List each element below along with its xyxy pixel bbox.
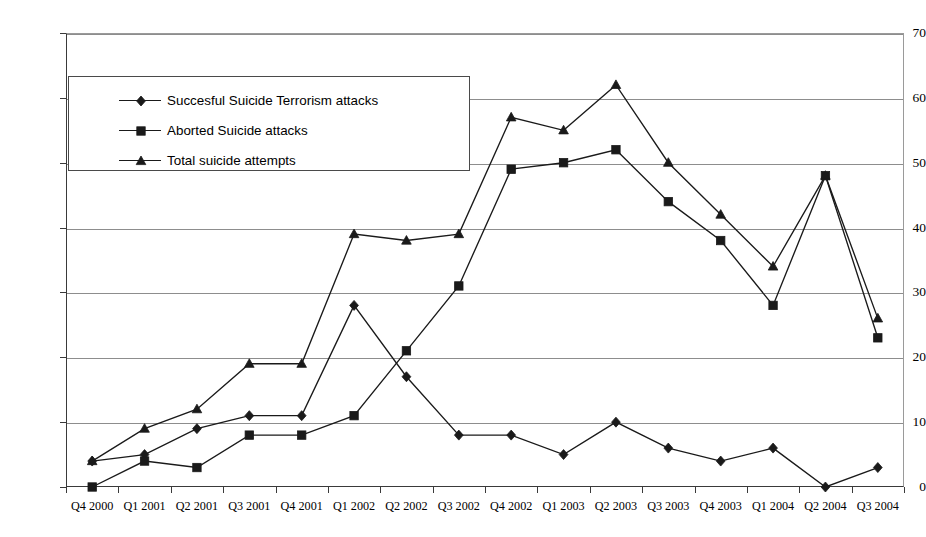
x-axis-tick-label: Q3 2002: [429, 500, 489, 513]
square-icon: [134, 124, 148, 138]
x-axis-tick-label: Q4 2003: [691, 500, 751, 513]
x-axis-tick-mark: [276, 487, 277, 493]
legend-item-1[interactable]: Succesful Suicide Terrorism attacks: [69, 91, 469, 111]
x-axis-tick-mark: [380, 487, 381, 493]
legend-label: Succesful Suicide Terrorism attacks: [167, 92, 378, 109]
x-axis-tick-mark: [485, 487, 486, 493]
x-axis-tick-mark: [433, 487, 434, 493]
y-axis-tick-mark: [60, 98, 66, 99]
x-axis-tick-mark: [695, 487, 696, 493]
gridline: [67, 423, 903, 424]
x-axis-tick-label: Q4 2002: [481, 500, 541, 513]
diamond-icon: [134, 94, 148, 108]
x-axis-tick-label: Q3 2001: [219, 500, 279, 513]
y-axis-tick-label: 60: [896, 91, 926, 105]
chart-legend: Succesful Suicide Terrorism attacksAbort…: [68, 76, 470, 171]
y-axis-tick-mark: [60, 292, 66, 293]
x-axis-tick-mark: [118, 487, 119, 493]
x-axis-tick-mark: [171, 487, 172, 493]
x-axis-tick-mark: [642, 487, 643, 493]
x-axis-tick-label: Q3 2004: [848, 500, 908, 513]
x-axis-tick-mark: [223, 487, 224, 493]
square-marker: [137, 127, 145, 135]
x-axis-tick-label: Q4 2000: [62, 500, 122, 513]
x-axis-tick-mark: [799, 487, 800, 493]
x-axis-tick-label: Q3 2003: [638, 500, 698, 513]
gridline: [67, 34, 903, 35]
y-axis-tick-label: 0: [896, 480, 926, 494]
legend-item-2[interactable]: Aborted Suicide attacks: [69, 121, 469, 141]
x-axis-tick-label: Q2 2004: [795, 500, 855, 513]
x-axis-tick-mark: [537, 487, 538, 493]
diamond-marker: [137, 96, 146, 106]
x-axis-tick-mark: [66, 487, 67, 493]
legend-label: Aborted Suicide attacks: [167, 122, 308, 139]
y-axis-tick-mark: [60, 422, 66, 423]
y-axis-tick-mark: [60, 33, 66, 34]
y-axis-tick-label: 40: [896, 221, 926, 235]
y-axis-tick-label: 50: [896, 156, 926, 170]
x-axis-tick-mark: [904, 487, 905, 493]
x-axis-tick-label: Q1 2002: [324, 500, 384, 513]
x-axis-tick-label: Q2 2002: [376, 500, 436, 513]
y-axis-tick-label: 20: [896, 350, 926, 364]
x-axis-tick-label: Q1 2001: [115, 500, 175, 513]
x-axis-tick-mark: [747, 487, 748, 493]
gridline: [67, 293, 903, 294]
x-axis-tick-mark: [328, 487, 329, 493]
y-axis-tick-mark: [60, 228, 66, 229]
x-axis-tick-mark: [852, 487, 853, 493]
legend-label: Total suicide attempts: [167, 152, 296, 169]
y-axis-tick-label: 10: [896, 415, 926, 429]
x-axis-tick-label: Q1 2003: [534, 500, 594, 513]
x-axis-tick-label: Q1 2004: [743, 500, 803, 513]
x-axis-tick-label: Q2 2003: [586, 500, 646, 513]
legend-item-3[interactable]: Total suicide attempts: [69, 151, 469, 171]
y-axis-tick-label: 30: [896, 285, 926, 299]
gridline: [67, 358, 903, 359]
x-axis-tick-label: Q2 2001: [167, 500, 227, 513]
y-axis-tick-label: 70: [896, 26, 926, 40]
y-axis-tick-mark: [60, 163, 66, 164]
x-axis-tick-mark: [590, 487, 591, 493]
triangle-icon: [134, 154, 148, 168]
gridline: [67, 229, 903, 230]
line-chart: 010203040506070 Q4 2000Q1 2001Q2 2001Q3 …: [0, 0, 926, 537]
x-axis-tick-label: Q4 2001: [272, 500, 332, 513]
y-axis-tick-mark: [60, 357, 66, 358]
triangle-marker: [136, 156, 146, 165]
